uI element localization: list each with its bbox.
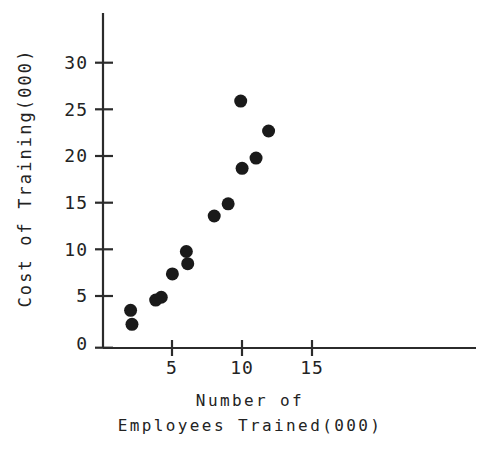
data-point [155, 291, 168, 304]
data-point [208, 210, 221, 223]
data-point [181, 257, 194, 270]
data-point [250, 152, 263, 165]
data-point [125, 318, 138, 331]
plot-area [0, 0, 492, 452]
data-point [124, 304, 137, 317]
data-point-group [124, 95, 275, 331]
x-axis-title-line2: Employees Trained(000) [60, 413, 440, 438]
data-point [236, 162, 249, 175]
data-point [222, 197, 235, 210]
x-axis-title-line1: Number of [196, 391, 304, 410]
scatter-chart-figure: Cost of Training(000) 30 25 20 15 10 5 0… [0, 0, 492, 452]
data-point [262, 125, 275, 138]
data-point [166, 267, 179, 280]
data-point [180, 245, 193, 258]
data-point [234, 95, 247, 108]
x-axis-title: Number of Employees Trained(000) [60, 388, 440, 438]
